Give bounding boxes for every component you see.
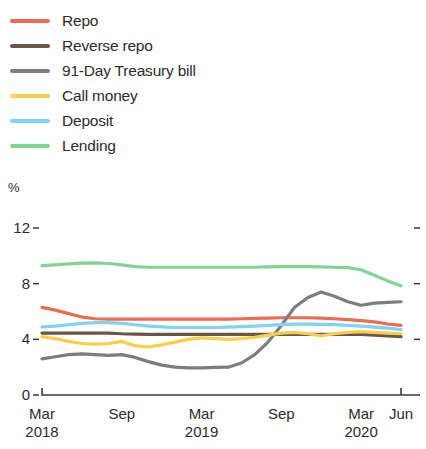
legend-label-repo: Repo xyxy=(62,13,98,29)
x-tick-label: Sep xyxy=(108,405,135,422)
series-line-91-day-treasury-bill xyxy=(42,292,401,368)
chart-plot-area: % 12840 Mar2018SepMar2019SepMar2020Jun xyxy=(0,178,426,449)
legend-item-deposit: Deposit xyxy=(10,108,310,133)
legend-item-reverse-repo: Reverse repo xyxy=(10,33,310,58)
series-line-deposit xyxy=(42,323,401,330)
legend-swatch-repo xyxy=(10,19,50,23)
x-tick-year-label: 2018 xyxy=(25,423,58,440)
y-tick-label: 8 xyxy=(22,275,30,292)
y-axis-ticks: 12840 xyxy=(13,219,39,403)
x-tick-label: Jun xyxy=(389,405,413,422)
legend-swatch-call-money xyxy=(10,94,50,98)
legend-swatch-reverse-repo xyxy=(10,44,50,48)
right-axis-ticks xyxy=(414,228,420,339)
y-tick-label: 0 xyxy=(22,386,30,403)
y-tick-label: 12 xyxy=(13,219,30,236)
x-tick-label: Mar xyxy=(348,405,374,422)
line-chart-svg: 12840 Mar2018SepMar2019SepMar2020Jun xyxy=(0,178,426,449)
legend-item-call-money: Call money xyxy=(10,83,310,108)
legend-label-call-money: Call money xyxy=(62,88,138,104)
legend-swatch-treasury-bill xyxy=(10,69,50,73)
y-tick-label: 4 xyxy=(22,330,30,347)
chart-figure: Repo Reverse repo 91-Day Treasury bill C… xyxy=(0,0,426,449)
x-tick-label: Sep xyxy=(268,405,295,422)
legend-item-repo: Repo xyxy=(10,8,310,33)
legend-label-reverse-repo: Reverse repo xyxy=(62,38,153,54)
legend-item-lending: Lending xyxy=(10,133,310,158)
legend-swatch-deposit xyxy=(10,119,50,123)
axis-lines xyxy=(42,388,420,395)
x-tick-year-label: 2019 xyxy=(185,423,218,440)
data-series-group xyxy=(42,263,401,368)
legend-label-lending: Lending xyxy=(62,138,116,154)
legend-label-treasury-bill: 91-Day Treasury bill xyxy=(62,63,196,79)
x-tick-year-label: 2020 xyxy=(344,423,377,440)
legend-label-deposit: Deposit xyxy=(62,113,113,129)
legend-item-treasury-bill: 91-Day Treasury bill xyxy=(10,58,310,83)
chart-legend: Repo Reverse repo 91-Day Treasury bill C… xyxy=(10,8,310,158)
series-line-lending xyxy=(42,263,401,286)
legend-swatch-lending xyxy=(10,144,50,148)
x-axis-baseline xyxy=(42,388,420,395)
x-axis-ticks: Mar2018SepMar2019SepMar2020Jun xyxy=(25,405,413,440)
x-tick-label: Mar xyxy=(29,405,55,422)
x-tick-label: Mar xyxy=(189,405,215,422)
